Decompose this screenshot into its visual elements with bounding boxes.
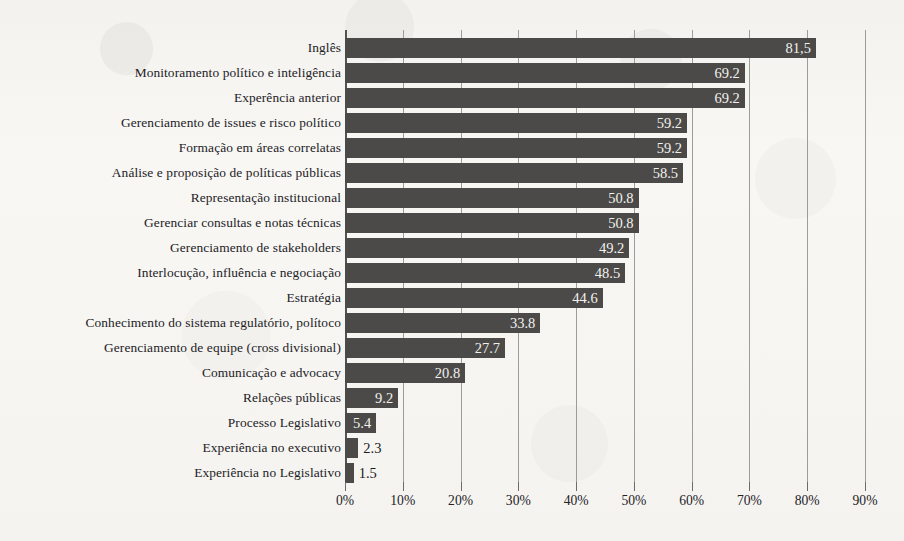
category-label: Representação institucional: [191, 191, 341, 204]
x-tick-label: 0%: [336, 493, 354, 509]
x-tick-mark: [518, 482, 519, 491]
bar-row[interactable]: 58.5: [345, 163, 683, 183]
bar-row[interactable]: 49.2: [345, 238, 629, 258]
x-tick-mark: [461, 482, 462, 491]
bar-value-label: 50.8: [608, 213, 633, 233]
bar-value-label: 5.4: [353, 413, 371, 433]
bar[interactable]: [345, 138, 687, 158]
x-tick-label: 80%: [795, 493, 820, 509]
x-tick-mark: [807, 482, 808, 491]
bar-row[interactable]: 5.4: [345, 413, 376, 433]
bar-row[interactable]: 69.2: [345, 63, 745, 83]
horizontal-bar-chart: InglêsMonitoramento político e inteligên…: [0, 0, 904, 541]
x-tick-mark: [865, 482, 866, 491]
gridline-70: [749, 30, 750, 482]
x-tick-label: 60%: [679, 493, 704, 509]
bar-value-label: 33.8: [510, 313, 535, 333]
bar-value-label: 1.5: [359, 463, 377, 483]
gridline-80: [807, 30, 808, 482]
category-label: Conhecimento do sistema regulatório, pol…: [85, 316, 341, 329]
bar-value-label: 48.5: [595, 263, 620, 283]
x-tick-label: 90%: [853, 493, 878, 509]
bar-value-label: 9.2: [375, 388, 393, 408]
bar-row[interactable]: 27.7: [345, 338, 505, 358]
category-label: Gerenciamento de equipe (cross divisiona…: [104, 341, 341, 354]
category-label: Experiência no executivo: [203, 441, 341, 454]
x-tick-label: 20%: [448, 493, 473, 509]
bar-row[interactable]: 2.3: [345, 438, 358, 458]
bar-value-label: 69.2: [714, 63, 739, 83]
x-tick-mark: [576, 482, 577, 491]
bar-value-label: 50.8: [608, 188, 633, 208]
plot-area: 81,569.269.259.259.258.550.850.849.248.5…: [345, 30, 865, 482]
bar-value-label: 59.2: [657, 113, 682, 133]
x-tick-mark: [345, 482, 346, 491]
x-tick-label: 30%: [506, 493, 531, 509]
category-label: Estratégia: [286, 291, 341, 304]
category-label: Processo Legislativo: [228, 416, 341, 429]
bar[interactable]: [345, 38, 816, 58]
category-label: Comunicação e advocacy: [202, 366, 341, 379]
bar-value-label: 49.2: [599, 238, 624, 258]
x-tick-mark: [692, 482, 693, 491]
bar-row[interactable]: 81,5: [345, 38, 816, 58]
bar-value-label: 44.6: [572, 288, 597, 308]
category-label: Análise e proposição de políticas públic…: [112, 166, 341, 179]
bar[interactable]: [345, 163, 683, 183]
bar-row[interactable]: 59.2: [345, 113, 687, 133]
bar-row[interactable]: 59.2: [345, 138, 687, 158]
bar-row[interactable]: 44.6: [345, 288, 603, 308]
x-tick-label: 50%: [621, 493, 646, 509]
category-label: Experiência no Legislativo: [194, 466, 341, 479]
bar[interactable]: [345, 238, 629, 258]
x-axis: 0%10%20%30%40%50%60%70%80%90%: [345, 482, 865, 522]
bar-value-label: 59.2: [657, 138, 682, 158]
bar-value-label: 69.2: [714, 88, 739, 108]
category-label: Formação em áreas correlatas: [179, 141, 341, 154]
bar-row[interactable]: 48.5: [345, 263, 625, 283]
bar[interactable]: [345, 263, 625, 283]
bar[interactable]: [345, 213, 639, 233]
bar[interactable]: [345, 188, 639, 208]
category-label: Gerenciamento de issues e risco político: [121, 116, 341, 129]
bar-row[interactable]: 1.5: [345, 463, 354, 483]
bar-value-label: 20.8: [435, 363, 460, 383]
bar-row[interactable]: 20.8: [345, 363, 465, 383]
bar-value-label: 58.5: [653, 163, 678, 183]
gridline-90: [865, 30, 866, 482]
bar-value-label: 27.7: [475, 338, 500, 358]
bar-value-label: 81,5: [786, 38, 811, 58]
category-label: Relações públicas: [243, 391, 341, 404]
x-tick-label: 70%: [737, 493, 762, 509]
chart-page: InglêsMonitoramento político e inteligên…: [0, 0, 904, 541]
x-tick-mark: [403, 482, 404, 491]
category-axis-labels: InglêsMonitoramento político e inteligên…: [0, 0, 341, 541]
category-label: Experência anterior: [234, 91, 341, 104]
bar-row[interactable]: 50.8: [345, 213, 639, 233]
category-label: Interlocução, influência e negociação: [137, 266, 341, 279]
category-label: Inglês: [308, 41, 341, 54]
x-tick-label: 40%: [564, 493, 589, 509]
category-label: Gerenciamento de stakeholders: [170, 241, 341, 254]
category-label: Monitoramento político e inteligência: [135, 66, 341, 79]
bar-row[interactable]: 50.8: [345, 188, 639, 208]
bar-row[interactable]: 33.8: [345, 313, 540, 333]
bar-value-label: 2.3: [363, 438, 381, 458]
x-tick-mark: [634, 482, 635, 491]
bar[interactable]: [345, 463, 354, 483]
bar[interactable]: [345, 63, 745, 83]
bar[interactable]: [345, 288, 603, 308]
bar[interactable]: [345, 113, 687, 133]
x-tick-mark: [749, 482, 750, 491]
bar[interactable]: [345, 88, 745, 108]
x-tick-label: 10%: [390, 493, 415, 509]
bar-row[interactable]: 69.2: [345, 88, 745, 108]
bar[interactable]: [345, 438, 358, 458]
bar-row[interactable]: 9.2: [345, 388, 398, 408]
category-label: Gerenciar consultas e notas técnicas: [144, 216, 341, 229]
